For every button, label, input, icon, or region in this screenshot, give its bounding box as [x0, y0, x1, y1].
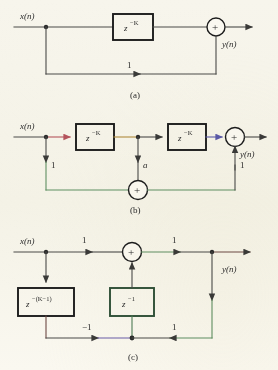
panel-c: x(n) y(n) 1 1 −1 1 z −(K−1) z −1 + (c) [0, 220, 278, 370]
panel-c-diagram: x(n) y(n) 1 1 −1 1 z −(K−1) z −1 + (c) [0, 220, 278, 370]
input-label-c: x(n) [19, 236, 35, 246]
input-label-b: x(n) [19, 121, 35, 131]
figure-container: x(n) y(n) z −K 1 + (a) [0, 0, 278, 370]
delay-block-c2 [110, 288, 154, 316]
delay-block-c2-base: z [121, 299, 126, 309]
delay-block-b2-exponent: −K [184, 129, 193, 136]
caption-b: (b) [130, 205, 141, 215]
caption-c: (c) [128, 352, 138, 362]
caption-a: (a) [130, 90, 140, 100]
delay-block-b2-base: z [177, 133, 182, 143]
delay-block-a [113, 14, 153, 40]
panel-a: x(n) y(n) z −K 1 + (a) [0, 0, 278, 110]
gain-label-c-neg: −1 [82, 322, 92, 332]
output-label-c: y(n) [221, 264, 237, 274]
delay-block-c1-exponent: −(K−1) [32, 295, 52, 303]
output-label-b: y(n) [239, 149, 255, 159]
gain-label-c-in: 1 [82, 235, 87, 245]
panel-a-diagram: x(n) y(n) z −K 1 + (a) [0, 0, 278, 110]
summer-a-sign: + [212, 21, 218, 33]
delay-block-a-base: z [123, 23, 128, 33]
gain-label-a: 1 [127, 60, 132, 70]
summer-c-sign: + [128, 246, 134, 258]
summer-b-bottom-sign: + [134, 184, 140, 196]
delay-block-a-exponent: −K [130, 19, 139, 26]
gain-label-b-left: 1 [51, 160, 56, 170]
panel-b: x(n) y(n) z −K z −K 1 a 1 + + (b) [0, 110, 278, 220]
delay-block-c2-exponent: −1 [128, 295, 135, 302]
delay-block-b2 [168, 124, 206, 150]
delay-block-b1-exponent: −K [92, 129, 101, 136]
gain-label-b-right: 1 [240, 160, 245, 170]
gain-label-c-fb: 1 [172, 322, 177, 332]
input-label-a: x(n) [19, 11, 35, 21]
panel-b-diagram: x(n) y(n) z −K z −K 1 a 1 + + (b) [0, 110, 278, 220]
gain-label-c-out: 1 [172, 235, 177, 245]
output-label-a: y(n) [221, 39, 237, 49]
delay-block-c1-base: z [25, 299, 30, 309]
summer-b-main-sign: + [231, 131, 237, 143]
delay-block-b1 [76, 124, 114, 150]
delay-block-b1-base: z [85, 133, 90, 143]
gain-label-b-mid: a [143, 160, 148, 170]
